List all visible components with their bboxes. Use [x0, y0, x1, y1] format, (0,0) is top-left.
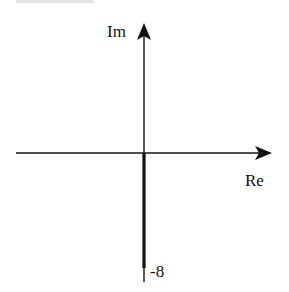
- imaginary-axis-label: Im: [107, 23, 126, 40]
- point-label: -8: [150, 263, 164, 280]
- real-axis-label: Re: [245, 172, 264, 189]
- complex-plane-diagram: [0, 0, 289, 292]
